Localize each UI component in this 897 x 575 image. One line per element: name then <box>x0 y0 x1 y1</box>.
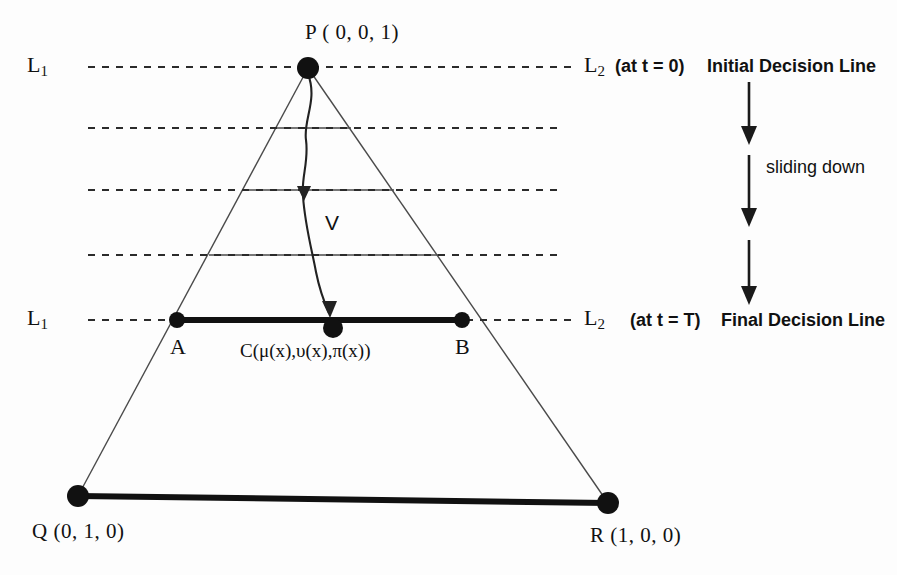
vertex-label-r: R (1, 0, 0) <box>590 525 681 546</box>
velocity-arrowhead-mid <box>297 186 311 201</box>
vertex-dot-p <box>297 57 319 79</box>
velocity-arrowhead-end <box>322 301 337 318</box>
right-line-bottom-subscript: 2 <box>597 316 604 332</box>
right-line-bottom-name: L <box>584 305 597 330</box>
point-label-a: A <box>170 336 186 358</box>
right-line-label-top: L2 <box>584 54 605 79</box>
triangle-outline <box>78 68 608 503</box>
sliding-down-label: sliding down <box>766 158 865 176</box>
sliding-arrow-head-3 <box>741 286 757 305</box>
dashed-guide-lines <box>88 67 575 320</box>
initial-decision-line-label: Initial Decision Line <box>707 57 876 75</box>
left-line-top-subscript: 1 <box>40 63 47 79</box>
right-line-top-subscript: 2 <box>597 63 604 79</box>
left-line-bottom-name: L <box>27 305 40 330</box>
vertex-dots <box>67 57 619 514</box>
left-line-label-bottom: L1 <box>27 307 48 332</box>
triangle-base-segment <box>78 496 608 503</box>
left-line-top-name: L <box>27 52 40 77</box>
left-line-bottom-subscript: 1 <box>40 316 47 332</box>
initial-time-label: (at t = 0) <box>615 57 685 75</box>
point-dot-b <box>454 312 470 328</box>
vertex-dot-q <box>67 485 89 507</box>
inner-chord-lines <box>209 128 438 255</box>
diagram-vector-layer <box>0 0 897 575</box>
final-time-label: (at t = T) <box>630 311 701 329</box>
velocity-label: V <box>325 212 339 233</box>
right-line-label-bottom: L2 <box>584 307 605 332</box>
vertex-dot-r <box>597 492 619 514</box>
point-label-b: B <box>455 336 470 358</box>
vertex-label-p: P ( 0, 0, 1) <box>305 22 399 43</box>
sliding-arrow-head-1 <box>741 126 757 145</box>
sliding-down-arrows <box>741 82 757 305</box>
sliding-arrow-head-2 <box>741 208 757 227</box>
left-line-label-top: L1 <box>27 54 48 79</box>
right-line-top-name: L <box>584 52 597 77</box>
point-dot-a <box>169 312 185 328</box>
vertex-label-q: Q (0, 1, 0) <box>32 521 124 542</box>
final-decision-line-label: Final Decision Line <box>721 311 885 329</box>
triangle-edge-right <box>308 68 608 503</box>
triangle-edge-left <box>78 68 308 496</box>
center-point-label: C(μ(x),υ(x),π(x)) <box>240 341 370 360</box>
point-dot-c <box>323 318 343 338</box>
diagram-canvas: P ( 0, 0, 1) L1 L2 (at t = 0) Initial De… <box>0 0 897 575</box>
